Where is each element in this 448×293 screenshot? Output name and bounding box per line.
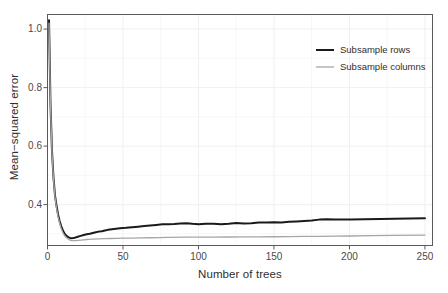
x-tick-label: 0 [28, 251, 68, 262]
chart-figure: Mean−squared error Number of trees 0.40.… [0, 0, 448, 293]
y-axis-title: Mean−squared error [8, 7, 20, 247]
y-tick-label: 0.4 [16, 199, 42, 210]
x-tick-label: 200 [329, 251, 369, 262]
x-tick-label: 250 [405, 251, 445, 262]
x-tick-label: 50 [103, 251, 143, 262]
x-axis-title: Number of trees [47, 268, 433, 280]
legend-label-subsample-columns: Subsample columns [340, 61, 426, 72]
y-tick-label: 0.8 [16, 82, 42, 93]
y-tick-label: 0.6 [16, 140, 42, 151]
legend-label-subsample-rows: Subsample rows [340, 44, 410, 55]
series-line-subsample-columns [49, 23, 425, 240]
y-tick-label: 1.0 [16, 23, 42, 34]
x-tick-label: 150 [254, 251, 294, 262]
x-tick-label: 100 [178, 251, 218, 262]
